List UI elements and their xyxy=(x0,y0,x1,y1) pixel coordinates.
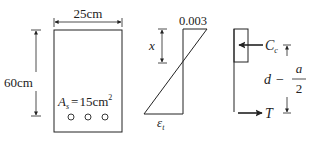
top-strain-label: 0.003 xyxy=(179,14,207,28)
tension-force-label: T xyxy=(265,106,274,121)
rebar-circle xyxy=(85,114,91,120)
lever-arm-numerator: a xyxy=(296,61,303,76)
force-diagram: Cc T d − a 2 xyxy=(234,29,306,121)
neutral-axis-dimension: x xyxy=(148,29,167,63)
compression-force-label: Cc xyxy=(265,38,278,55)
rebar-circle xyxy=(68,114,74,120)
width-label: 25cm xyxy=(74,6,103,21)
rebar-group xyxy=(68,114,108,120)
height-label: 60cm xyxy=(4,75,33,90)
width-dimension: 25cm xyxy=(54,6,122,27)
cross-section: 25cm 60cm As=15cm2 xyxy=(4,6,122,132)
beam-rectangle xyxy=(54,30,122,132)
lever-arm-denominator: 2 xyxy=(296,81,303,96)
steel-area-label: As=15cm2 xyxy=(57,93,112,111)
rebar-circle xyxy=(102,114,108,120)
strain-diagram: 0.003 x εt xyxy=(144,14,207,132)
lever-arm-dimension: d − a 2 xyxy=(264,45,306,113)
lever-arm-d: d xyxy=(264,72,272,87)
height-dimension: 60cm xyxy=(4,30,41,116)
tensile-strain-label: εt xyxy=(157,115,165,132)
lever-arm-minus: − xyxy=(276,72,284,87)
neutral-axis-label: x xyxy=(148,38,155,53)
beam-diagram: 25cm 60cm As=15cm2 0.003 xyxy=(0,0,315,141)
